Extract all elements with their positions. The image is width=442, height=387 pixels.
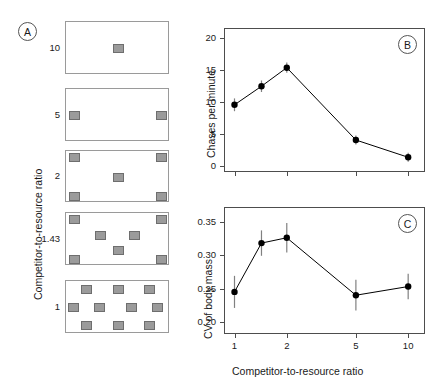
- panel-a-competitor-square: [152, 303, 163, 312]
- panel-a-competitor-square: [68, 303, 79, 312]
- panel-a-competitor-square: [113, 173, 124, 182]
- panel-c-x-axis-title: Competitor-to-resource ratio: [232, 366, 363, 377]
- chart-data-point: [258, 83, 264, 89]
- panel-a-arena-box: [65, 150, 169, 202]
- panel-a-row-label: 1.43: [20, 234, 60, 244]
- panel-a-competitor-square: [113, 321, 124, 330]
- chart-data-point: [405, 154, 411, 160]
- chart-series-layer: [190, 0, 442, 190]
- panel-a-competitor-square: [69, 255, 80, 264]
- chart-data-point: [353, 292, 359, 298]
- panel-a-competitor-square: [69, 215, 80, 224]
- panel-a-competitor-square: [69, 153, 80, 162]
- chart-data-point: [231, 102, 237, 108]
- panel-a-competitor-square: [113, 285, 124, 294]
- panel-c: CV of body mass 0.200.250.300.3512510C C…: [190, 186, 442, 387]
- panel-a-competitor-square: [69, 192, 80, 201]
- panel-a-competitor-square: [156, 255, 167, 264]
- panel-a-competitor-square: [126, 303, 137, 312]
- chart-data-point: [231, 289, 237, 295]
- panel-a-arena-box: [65, 212, 169, 265]
- figure-root: A Competitor-to-resource ratio 10521.431…: [0, 0, 442, 387]
- panel-a-row-label: 1: [20, 302, 60, 312]
- panel-a-competitor-square: [113, 44, 124, 53]
- panel-a-arena-box: [65, 21, 169, 74]
- chart-data-point: [405, 283, 411, 289]
- panel-a-competitor-square: [156, 153, 167, 162]
- panel-a-row-label: 10: [20, 43, 60, 53]
- panel-a-arena-box: [65, 88, 169, 141]
- chart-series-line: [235, 238, 409, 295]
- chart-data-point: [258, 240, 264, 246]
- panel-c-tag: C: [398, 214, 417, 233]
- chart-data-point: [353, 137, 359, 143]
- panel-a-competitor-square: [95, 231, 106, 240]
- panel-a-tag: A: [18, 22, 37, 41]
- panel-a-row-label: 5: [20, 110, 60, 120]
- panel-b: Chases per minute 05101520B: [190, 0, 442, 190]
- panel-a-competitor-square: [156, 215, 167, 224]
- panel-a-competitor-square: [69, 111, 80, 120]
- panel-a-competitor-square: [113, 246, 124, 255]
- panel-a-competitor-square: [94, 303, 105, 312]
- panel-a-row-label: 2: [20, 171, 60, 181]
- chart-data-point: [284, 235, 290, 241]
- panel-b-tag: B: [398, 35, 417, 54]
- panel-a-competitor-square: [129, 231, 140, 240]
- panel-a-competitor-square: [81, 321, 92, 330]
- panel-a-competitor-square: [156, 192, 167, 201]
- panel-a-arena-box: [65, 280, 169, 333]
- panel-a-competitor-square: [156, 111, 167, 120]
- chart-data-point: [284, 64, 290, 70]
- panel-a-competitor-square: [144, 321, 155, 330]
- chart-series-line: [235, 68, 409, 158]
- panel-a: A Competitor-to-resource ratio 10521.431: [0, 0, 190, 387]
- panel-a-competitor-square: [144, 285, 155, 294]
- panel-a-competitor-square: [81, 285, 92, 294]
